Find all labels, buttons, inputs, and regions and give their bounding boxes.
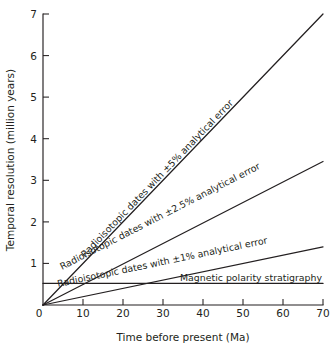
x-tick-label-30: 30 <box>156 307 169 319</box>
series-label-magnetic-polarity: Magnetic polarity stratigraphy <box>180 272 322 283</box>
y-tick-label-0: 0 <box>36 307 43 319</box>
x-tick-label-10: 10 <box>76 307 89 319</box>
y-tick-label-6: 6 <box>30 50 37 62</box>
temporal-resolution-line-chart: 7 6 5 4 3 2 1 0 Temporal resolution (mil… <box>0 0 334 355</box>
x-axis-title: Time before present (Ma) <box>115 331 249 343</box>
chart-figure: 7 6 5 4 3 2 1 0 Temporal resolution (mil… <box>0 0 334 355</box>
y-tick-label-4: 4 <box>30 133 37 145</box>
x-axis: 10 20 30 40 50 60 70 Time before present… <box>43 299 330 343</box>
y-axis-title: Temporal resolution (million years) <box>4 69 16 252</box>
x-tick-label-50: 50 <box>236 307 249 319</box>
y-tick-label-5: 5 <box>30 91 37 103</box>
y-axis: 7 6 5 4 3 2 1 0 Temporal resolution (mil… <box>4 8 49 319</box>
y-tick-label-1: 1 <box>30 257 37 269</box>
y-tick-label-7: 7 <box>30 8 37 20</box>
x-tick-label-40: 40 <box>196 307 209 319</box>
y-tick-label-3: 3 <box>30 174 37 186</box>
series-label-5-percent: Radioisotopic dates with ±5% analytical … <box>79 97 236 259</box>
y-tick-label-2: 2 <box>30 216 37 228</box>
series-labels-group: Radioisotopic dates with ±5% analytical … <box>56 97 322 289</box>
x-tick-label-70: 70 <box>316 307 329 319</box>
x-tick-label-60: 60 <box>276 307 289 319</box>
x-tick-label-20: 20 <box>116 307 129 319</box>
